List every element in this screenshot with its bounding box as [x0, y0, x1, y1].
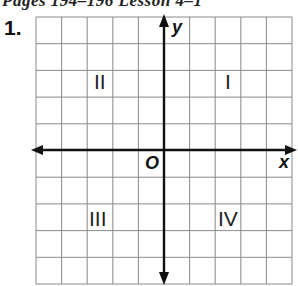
quadrant-label-iv: IV [218, 207, 238, 230]
quadrant-label-iii: III [89, 207, 107, 230]
y-axis-label: y [171, 17, 183, 37]
x-axis-label: x [278, 152, 290, 172]
coordinate-plane: y x O II I III IV [0, 0, 298, 286]
quadrant-label-i: I [225, 70, 231, 93]
origin-label: O [145, 153, 159, 173]
y-axis-arrow-down-icon [159, 272, 169, 285]
y-axis-arrow-up-icon [159, 14, 169, 27]
quadrant-label-ii: II [94, 70, 106, 93]
x-axis-arrow-left-icon [31, 145, 43, 155]
